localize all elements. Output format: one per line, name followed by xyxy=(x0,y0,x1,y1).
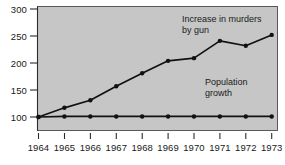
data-point xyxy=(88,98,92,102)
data-point xyxy=(218,114,222,118)
y-tick-label-150: 150 xyxy=(11,85,27,96)
data-point xyxy=(192,114,196,118)
x-tick-label-1973: 1973 xyxy=(261,142,283,153)
x-tick-label-1969: 1969 xyxy=(157,142,179,153)
line-chart: 300 250 200 150 100 1964 1965 1966 1967 … xyxy=(0,0,285,165)
x-tick-label-1972: 1972 xyxy=(235,142,257,153)
data-point xyxy=(244,114,248,118)
data-point xyxy=(88,114,92,118)
data-point xyxy=(140,71,144,75)
plot-area-background xyxy=(38,7,278,131)
data-point xyxy=(218,39,222,43)
y-tick-label-200: 200 xyxy=(11,58,27,69)
x-tick-label-1970: 1970 xyxy=(183,142,205,153)
x-tick-label-1965: 1965 xyxy=(54,142,76,153)
data-point xyxy=(192,56,196,60)
data-point xyxy=(62,106,66,110)
series-line xyxy=(39,116,272,117)
data-point xyxy=(166,59,170,63)
x-tick-label-1967: 1967 xyxy=(106,142,128,153)
population-annotation-line2: growth xyxy=(205,88,232,98)
data-point xyxy=(36,115,40,119)
murders-annotation-line2: by gun xyxy=(182,25,209,35)
data-point xyxy=(166,114,170,118)
data-point xyxy=(62,114,66,118)
x-tick-label-1968: 1968 xyxy=(131,142,153,153)
data-point xyxy=(114,84,118,88)
y-axis-labels: 300 250 200 150 100 xyxy=(11,4,27,123)
y-tick-label-300: 300 xyxy=(11,4,27,15)
murders-annotation-line1: Increase in murders xyxy=(182,14,262,24)
data-point xyxy=(140,114,144,118)
population-annotation-line1: Population xyxy=(205,77,248,87)
x-axis-labels: 1964 1965 1966 1967 1968 1969 1970 1971 … xyxy=(28,142,283,153)
data-point xyxy=(270,114,274,118)
chart-container: 300 250 200 150 100 1964 1965 1966 1967 … xyxy=(0,0,285,165)
y-axis-ticks xyxy=(30,9,38,117)
data-point xyxy=(114,114,118,118)
x-axis-ticks xyxy=(39,133,272,139)
y-tick-label-250: 250 xyxy=(11,31,27,42)
data-point xyxy=(244,44,248,48)
x-tick-label-1966: 1966 xyxy=(80,142,102,153)
data-point xyxy=(270,33,274,37)
x-tick-label-1971: 1971 xyxy=(209,142,231,153)
x-tick-label-1964: 1964 xyxy=(28,142,50,153)
y-tick-label-100: 100 xyxy=(11,112,27,123)
